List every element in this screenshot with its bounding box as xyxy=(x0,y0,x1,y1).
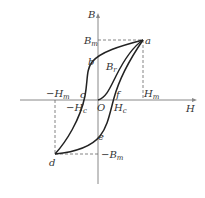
point-c: c xyxy=(80,89,86,100)
point-a: a xyxy=(145,35,151,46)
b-axis-label: B xyxy=(87,9,95,20)
hysteresis-diagram: B H Bm −Bm Hm −Hm Hc −Hc Br a b c d e f … xyxy=(0,0,205,198)
h-axis-arrow-icon xyxy=(192,98,197,102)
svg-text:Hc: Hc xyxy=(113,102,127,115)
point-b: b xyxy=(88,56,94,67)
point-f: f xyxy=(115,89,122,100)
origin-o: O xyxy=(97,102,105,113)
svg-text:Br: Br xyxy=(105,61,117,74)
h-axis-label: H xyxy=(185,103,195,114)
svg-text:−Bm: −Bm xyxy=(101,149,124,162)
svg-text:Hm: Hm xyxy=(143,88,160,101)
svg-text:−Hc: −Hc xyxy=(66,102,87,115)
svg-text:Bm: Bm xyxy=(83,35,98,48)
point-e: e xyxy=(98,131,104,142)
b-axis-arrow-icon xyxy=(96,13,100,18)
point-d: d xyxy=(49,157,55,168)
svg-text:−Hm: −Hm xyxy=(46,88,70,101)
